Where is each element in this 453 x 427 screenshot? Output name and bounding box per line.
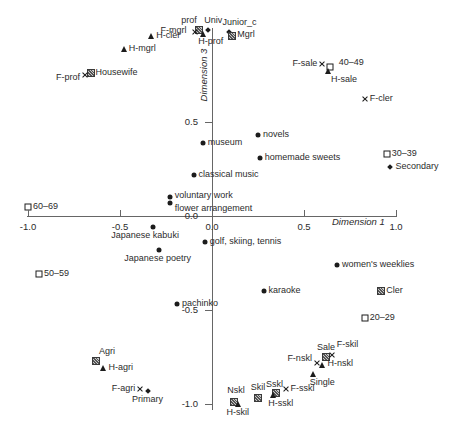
point-label-f-prof: F-prof — [56, 73, 80, 83]
marker-novels — [256, 133, 261, 138]
point-label-novels: novels — [263, 130, 289, 140]
marker-museum — [200, 140, 205, 145]
marker-pachinko — [175, 302, 180, 307]
point-label-f-skil: F-skil — [337, 340, 359, 350]
point-label-sskl: Sskl — [266, 380, 283, 390]
point-label-50-59: 50–59 — [44, 269, 69, 279]
point-label-skil: Skil — [251, 383, 266, 393]
point-label-h-nskl: H-nskl — [327, 359, 353, 369]
point-label-women-s-weeklies: women's weeklies — [342, 260, 414, 270]
point-label-30-39: 30–39 — [392, 149, 417, 159]
point-label-cler: Cler — [386, 286, 403, 296]
x-axis-label: Dimension 1 — [332, 216, 385, 227]
point-label-secondary: Secondary — [395, 162, 438, 172]
point-label-primary: Primary — [132, 395, 163, 405]
y-tick-label-0-5: 0.5 — [162, 116, 198, 127]
marker-agri — [92, 357, 100, 365]
x-tick-1-0 — [28, 210, 29, 216]
point-label-mgrl: Mgrl — [237, 30, 255, 40]
point-label-h-agri: H-agri — [108, 363, 133, 373]
point-label-h-prof: H-prof — [198, 37, 223, 47]
point-label-japanese-poetry: Japanese poetry — [124, 254, 191, 264]
marker-h-cler — [148, 33, 154, 39]
x-tick-1-0 — [396, 210, 397, 216]
marker-flower-arrangement — [167, 200, 172, 205]
marker-skil — [254, 394, 262, 402]
marker-classical-music — [191, 172, 196, 177]
point-label-agri: Agri — [99, 347, 115, 357]
point-label-f-sale: F-sale — [292, 59, 317, 69]
marker-h-agri — [100, 365, 106, 371]
point-label-h-skil: H-skil — [227, 408, 250, 418]
point-label-h-sale: H-sale — [331, 75, 357, 85]
marker-voluntary-work — [167, 195, 172, 200]
point-label-karaoke: karaoke — [269, 286, 301, 296]
marker-japanese-poetry — [156, 247, 161, 252]
marker-cler — [377, 287, 385, 295]
point-label-junior-c: Junior_c — [223, 18, 257, 28]
marker-golf-skiing-tennis — [202, 240, 207, 245]
point-label-60-69: 60–69 — [33, 202, 58, 212]
point-label-f-cler: F-cler — [370, 94, 393, 104]
point-label-f-mgrl: F-mgrl — [160, 26, 186, 36]
x-tick-0-5 — [304, 210, 305, 216]
marker-50-59 — [36, 271, 43, 278]
y-tick-0-0 — [205, 216, 212, 217]
point-label-20-29: 20–29 — [370, 313, 395, 323]
x-tick-label-0-0: 0.0 — [195, 221, 229, 232]
y-tick-label-1-0: -1.0 — [162, 398, 198, 409]
marker-f-sskl — [282, 385, 289, 392]
marker-f-cler — [361, 96, 368, 103]
point-label-h-mgrl: H-mgrl — [129, 44, 156, 54]
marker-30-39 — [383, 150, 390, 157]
point-label-nskl: Nskl — [227, 386, 245, 396]
x-tick-label-1-0: -1.0 — [11, 221, 45, 232]
y-axis-label: Dimension 3 — [198, 49, 209, 102]
x-tick-label-1-0: 1.0 — [379, 221, 413, 232]
marker-univ — [205, 27, 211, 33]
x-tick-0-5 — [120, 210, 121, 216]
marker-japanese-kabuki — [151, 225, 156, 230]
point-label-h-sskl: H-sskl — [268, 399, 293, 409]
point-label-f-agri: F-agri — [112, 384, 136, 394]
y-tick-0-5 — [205, 310, 212, 311]
marker-20-29 — [361, 314, 368, 321]
marker-f-skil — [328, 352, 335, 359]
point-label-40-49: 40–49 — [339, 59, 364, 69]
marker-karaoke — [261, 289, 266, 294]
marker-f-agri — [137, 385, 144, 392]
point-label-classical-music: classical music — [199, 170, 259, 180]
y-tick-0-5 — [205, 122, 212, 123]
marker-60-69 — [25, 203, 32, 210]
marker-f-sale — [319, 60, 326, 67]
marker-f-mgrl — [192, 28, 199, 35]
point-label-f-nskl: F-nskl — [287, 354, 312, 364]
point-label-golf-skiing-tennis: golf, skiing, tennis — [210, 237, 282, 247]
marker-women-s-weeklies — [335, 262, 340, 267]
point-label-univ: Univ — [204, 16, 222, 26]
marker-homemade-sweets — [257, 155, 262, 160]
marker-f-prof — [82, 72, 89, 79]
y-axis-line — [212, 28, 213, 410]
point-label-homemade-sweets: homemade sweets — [265, 153, 341, 163]
marker-h-mgrl — [121, 46, 127, 52]
point-label-housewife: Housewife — [96, 68, 138, 78]
point-label-museum: museum — [208, 138, 243, 148]
marker-primary — [145, 388, 151, 394]
point-label-japanese-kabuki: Japanese kabuki — [111, 231, 179, 241]
x-tick-label-0-5: 0.5 — [287, 221, 321, 232]
marker-f-nskl — [313, 359, 320, 366]
marker-mgrl — [228, 32, 236, 40]
point-label-pachinko: pachinko — [182, 299, 218, 309]
point-label-flower-arrangement: flower arrangement — [175, 204, 253, 214]
scatter-plot-figure: Dimension 1 Dimension 3 -1.0-0.50.00.51.… — [0, 0, 453, 427]
marker-secondary — [388, 164, 394, 170]
point-label-f-sskl: F-sskl — [291, 384, 315, 394]
plot-area: Dimension 1 Dimension 3 -1.0-0.50.00.51.… — [0, 0, 453, 427]
y-tick-1-0 — [205, 404, 212, 405]
point-label-voluntary-work: voluntary work — [175, 191, 233, 201]
